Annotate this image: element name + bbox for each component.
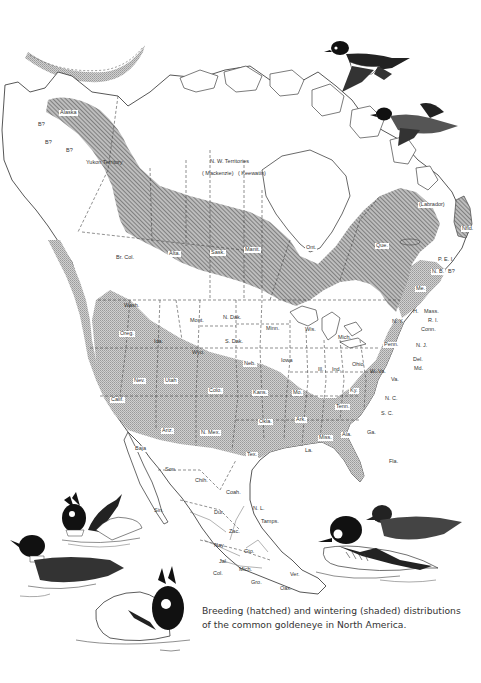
label-gto: Gto. — [244, 549, 254, 555]
label-miss: Miss. — [318, 435, 333, 441]
label-ny: N. Y. — [392, 319, 403, 325]
label-colo: Colo. — [208, 388, 223, 394]
label-nb: N. B. — [431, 269, 445, 275]
label-zac: Zac. — [229, 529, 240, 535]
label-mackenzie: ( Mackenzie) — [202, 171, 233, 177]
label-wyo: Wyo. — [192, 350, 204, 356]
label-que: Que. — [375, 243, 389, 249]
label-keewatin: ( Keewatin) — [238, 171, 266, 177]
goldeneye-hen-swimming — [10, 535, 124, 597]
label-mo: Mo. — [292, 390, 303, 396]
label-sc: S. C. — [380, 411, 394, 417]
label-neb: Neb. — [243, 361, 257, 367]
label-utah: Utah — [164, 378, 178, 384]
label-ariz: Ariz. — [161, 428, 174, 434]
label-ida: Ida. — [154, 339, 163, 345]
label-wva: W. Va. — [370, 369, 386, 375]
label-ill: Ill. — [318, 367, 324, 373]
label-col: Col. — [213, 571, 223, 577]
label-nh: H. — [413, 309, 419, 315]
label-query-2: B? — [45, 140, 52, 146]
label-okla: Okla. — [258, 419, 273, 425]
label-mass: Mass. — [424, 309, 439, 315]
label-sask: Sask. — [210, 250, 226, 256]
label-tex: Tex. — [246, 452, 258, 458]
label-wash: Wash. — [124, 303, 139, 309]
label-ri: R. I. — [428, 318, 438, 324]
label-va: Va. — [390, 377, 400, 383]
label-query-3: B? — [66, 148, 73, 154]
figure-caption: Breeding (hatched) and wintering (shaded… — [202, 604, 472, 632]
label-ns-query: B? — [447, 269, 456, 275]
label-br-col: Br. Col. — [116, 255, 134, 261]
label-minn: Minn. — [266, 326, 279, 332]
aleutian-winter-range — [25, 45, 145, 82]
label-yukon: Yukon Territory — [86, 160, 123, 166]
label-me: Me. — [415, 286, 426, 292]
label-nay: Nay. — [214, 543, 225, 549]
goldeneye-courtship-pair — [62, 492, 142, 547]
label-iowa: Iowa — [281, 358, 293, 364]
label-ohio: Ohio — [352, 362, 364, 368]
label-alaska: Alaska — [59, 110, 78, 116]
label-dur: Dur. — [214, 510, 224, 516]
label-del: Del. — [413, 357, 423, 363]
label-penn: Penn. — [383, 342, 399, 348]
label-alta: Alta. — [168, 251, 181, 257]
label-ark: Ark. — [295, 417, 307, 423]
label-calif: Calif. — [110, 397, 125, 403]
label-fla: Fla. — [388, 459, 399, 465]
label-kans: Kans. — [252, 390, 268, 396]
label-oreg: Oreg. — [119, 331, 135, 337]
label-nl: N. L. — [253, 506, 265, 512]
label-md: Md. — [414, 366, 423, 372]
label-ala: Ala. — [341, 432, 352, 438]
newfoundland — [454, 196, 472, 238]
label-ky: Ky. — [349, 388, 359, 394]
label-labrador: (Labrador) — [418, 202, 446, 208]
label-ndak: N. Dak. — [223, 315, 241, 321]
label-nmex: N. Mex. — [200, 430, 221, 436]
label-conn: Conn. — [421, 327, 436, 333]
label-la: La. — [304, 448, 314, 454]
label-coah: Coah. — [226, 490, 241, 496]
label-son: Son. — [165, 467, 176, 473]
label-ga: Ga. — [366, 430, 377, 436]
label-oax: Oax. — [280, 586, 292, 592]
label-nev: Nev. — [133, 378, 146, 384]
label-jal: Jal. — [219, 559, 228, 565]
label-baja: Baja — [134, 446, 147, 452]
label-sdak: S. Dak. — [225, 339, 243, 345]
label-gro: Gro. — [251, 580, 262, 586]
label-mich: Mich. — [338, 335, 351, 341]
label-nc: N. C. — [384, 396, 399, 402]
label-mont: Mont. — [190, 318, 204, 324]
goldeneye-swimming-pair — [316, 505, 462, 582]
label-tenn: Tenn. — [335, 404, 350, 410]
label-ind: Ind. — [332, 367, 341, 373]
label-wis: Wis. — [305, 327, 316, 333]
label-ver: Ver. — [290, 572, 299, 578]
flying-goldeneye-male — [324, 41, 410, 92]
label-query-1: B? — [38, 122, 45, 128]
label-nwt: N. W. Territories — [210, 159, 249, 165]
label-manit: Manit. — [244, 247, 261, 253]
label-chih: Chih. — [195, 478, 208, 484]
label-ont: Ont. — [305, 245, 317, 251]
label-sin: Sin. — [154, 508, 163, 514]
label-tamps: Tamps. — [261, 519, 279, 525]
label-pei: P. E. I. — [438, 257, 454, 263]
label-nfld: Nfld. — [461, 226, 474, 232]
label-mich-mx: Mich. — [239, 567, 252, 573]
label-nj: N. J. — [416, 343, 427, 349]
